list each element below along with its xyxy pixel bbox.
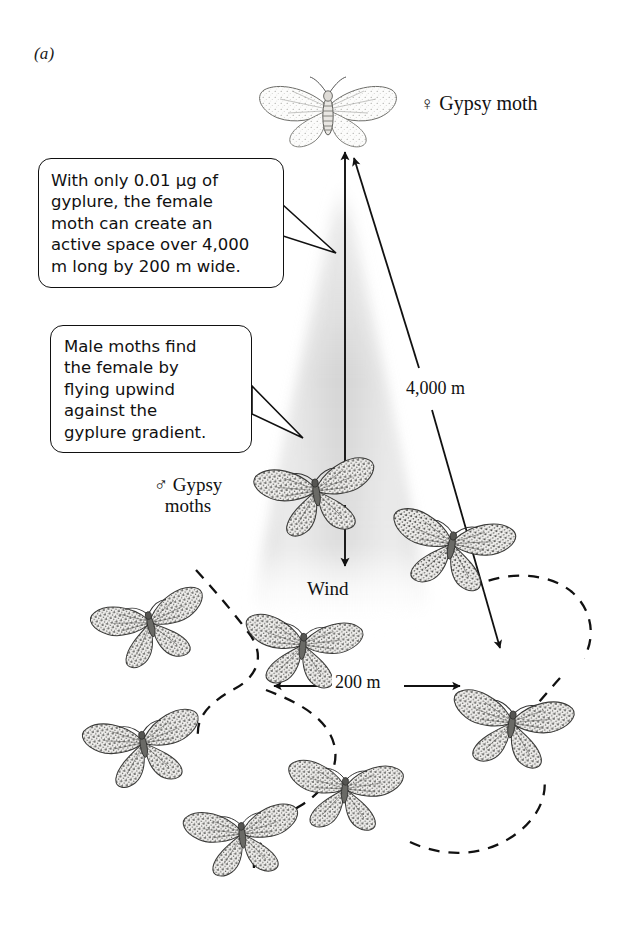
male-gypsy-moth	[88, 584, 215, 675]
male-label-line1: ♂ Gypsy	[118, 474, 258, 495]
female-gypsy-moth	[260, 77, 397, 147]
callout-line: flying upwind	[64, 379, 241, 400]
callout-line: moth can create an	[51, 213, 273, 234]
callout-line: the female by	[64, 357, 241, 378]
callout-line: With only 0.01 µg of	[51, 170, 273, 191]
female-label-text: Gypsy moth	[434, 92, 537, 114]
female-moth-label: ♀ Gypsy moth	[420, 92, 538, 115]
panel-label: (a)	[34, 44, 54, 64]
male-gypsy-moth	[81, 707, 208, 793]
plume-width-label: 200 m	[332, 672, 384, 693]
male-gypsy-moth	[182, 802, 303, 879]
callout-line: active space over 4,000	[51, 234, 273, 255]
male-gypsy-moth	[384, 506, 518, 597]
callout-male-upwind-flight: Male moths find the female by flying upw…	[50, 325, 252, 453]
female-symbol-icon: ♀	[420, 93, 434, 114]
male-gypsy-moth	[253, 456, 382, 541]
male-gypsy-moth	[285, 759, 404, 832]
male-gypsy-moth	[446, 688, 575, 773]
callout-line: m long by 200 m wide.	[51, 256, 273, 277]
moth-layer	[0, 0, 640, 926]
callout-pheromone-active-space: With only 0.01 µg of gyplure, the female…	[38, 158, 284, 288]
callout-line: gyplure gradient.	[64, 422, 241, 443]
callout-line: Male moths find	[64, 336, 241, 357]
plume-length-label: 4,000 m	[404, 378, 467, 399]
callout-line: against the	[64, 400, 241, 421]
male-label-line2: moths	[118, 495, 258, 516]
male-moth-label: ♂ Gypsy moths	[118, 474, 258, 517]
callout-line: gyplure, the female	[51, 191, 273, 212]
figure-gypsy-moth-active-space: (a) With only 0.01 µg of gyplure, the fe…	[0, 0, 640, 926]
wind-direction-label: Wind	[307, 578, 348, 600]
